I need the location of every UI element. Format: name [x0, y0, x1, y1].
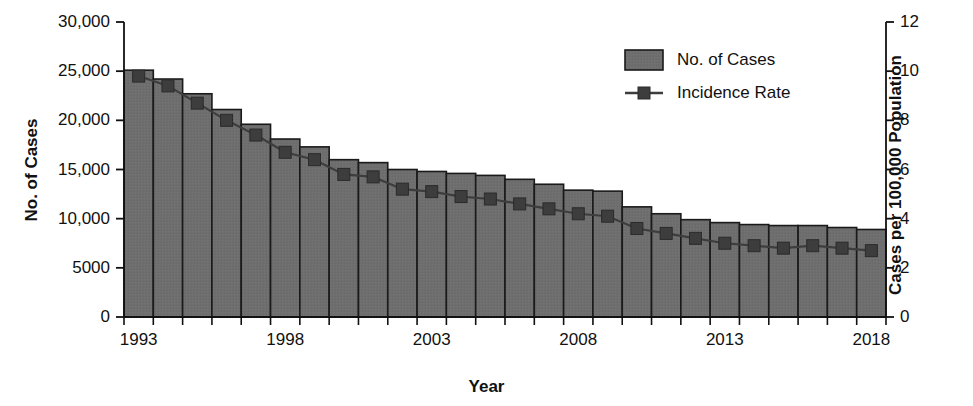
line-marker: [865, 245, 877, 257]
y-axis-left-tick-label: 25,000: [58, 61, 110, 81]
bar: [827, 228, 856, 317]
line-marker: [690, 232, 702, 244]
line-marker: [748, 240, 760, 252]
line-marker: [338, 168, 350, 180]
line-marker: [367, 171, 379, 183]
x-axis-tick-label: 2018: [852, 330, 890, 350]
line-marker: [543, 203, 555, 215]
bar: [857, 229, 886, 317]
line-marker: [572, 208, 584, 220]
line-marker: [602, 210, 614, 222]
y-axis-left-tick-label: 15,000: [58, 160, 110, 180]
bar: [739, 225, 768, 317]
line-marker: [514, 198, 526, 210]
y-axis-right-tick-label: 12: [900, 12, 919, 32]
line-marker: [777, 242, 789, 254]
bar: [329, 160, 358, 317]
line-marker: [191, 97, 203, 109]
bar: [241, 124, 270, 317]
y-axis-right-tick-label: 10: [900, 61, 919, 81]
bar: [153, 79, 182, 317]
line-marker: [455, 191, 467, 203]
legend-label: No. of Cases: [677, 50, 775, 70]
line-marker: [396, 183, 408, 195]
line-marker: [807, 240, 819, 252]
y-axis-left-tick-label: 10,000: [58, 209, 110, 229]
bar: [212, 110, 241, 317]
bar: [271, 139, 300, 317]
y-axis-right-tick-label: 2: [900, 258, 909, 278]
line-marker: [279, 146, 291, 158]
y-axis-right-tick-label: 0: [900, 307, 909, 327]
y-axis-right-tick-label: 6: [900, 160, 909, 180]
x-axis-tick-label: 2013: [706, 330, 744, 350]
line-marker: [250, 129, 262, 141]
bar: [769, 226, 798, 317]
x-axis-title: Year: [0, 377, 973, 397]
y-axis-left-tick-label: 5000: [72, 258, 110, 278]
line-marker: [660, 227, 672, 239]
line-marker: [309, 154, 321, 166]
chart-figure: No. of Cases Cases per 100,000 Populatio…: [0, 0, 973, 406]
bars-series: [124, 70, 886, 317]
line-marker: [484, 193, 496, 205]
legend-swatch-marker: [638, 87, 650, 99]
y-axis-right-tick-label: 8: [900, 110, 909, 130]
legend-glyphs: [625, 50, 663, 99]
line-marker: [719, 237, 731, 249]
line-marker: [631, 223, 643, 235]
y-axis-left-tick-label: 30,000: [58, 12, 110, 32]
bar: [183, 94, 212, 317]
line-marker: [426, 186, 438, 198]
bar: [358, 163, 387, 317]
legend-label: Incidence Rate: [677, 83, 790, 103]
x-axis-tick-label: 2008: [559, 330, 597, 350]
x-axis-tick-label: 1998: [266, 330, 304, 350]
y-axis-left-title: No. of Cases: [22, 80, 42, 260]
line-marker: [221, 114, 233, 126]
bar: [300, 147, 329, 317]
y-axis-left-tick-label: 20,000: [58, 110, 110, 130]
line-marker: [133, 70, 145, 82]
legend-swatch-bar: [625, 50, 663, 70]
x-axis-tick-label: 2003: [413, 330, 451, 350]
y-axis-left-tick-label: 0: [101, 307, 110, 327]
y-axis-right-tick-label: 4: [900, 209, 909, 229]
line-marker: [836, 242, 848, 254]
line-marker: [162, 80, 174, 92]
x-axis-tick-label: 1993: [120, 330, 158, 350]
bar: [124, 70, 153, 317]
